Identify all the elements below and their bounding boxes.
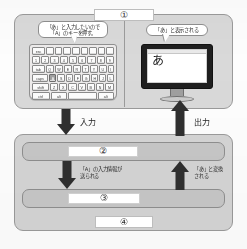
key-blank	[89, 47, 97, 55]
key-blank	[98, 47, 106, 55]
key-blank	[55, 47, 63, 55]
key-7: 7	[87, 56, 95, 64]
monitor-neck	[170, 89, 184, 96]
key-blank	[63, 47, 71, 55]
monitor-screen: あ	[147, 49, 207, 83]
arrow-shaft	[63, 161, 72, 179]
label-convert-line2: される	[194, 173, 234, 180]
key-y: Y	[90, 65, 98, 73]
arrow-head	[171, 100, 189, 111]
key-alt-left: alt	[51, 92, 68, 100]
step-marker-3-label: ③	[100, 194, 108, 203]
key-i: I	[108, 65, 114, 73]
keyboard-row-numbers: 1 2 3 4 5 6 7 8 9	[32, 56, 114, 64]
key-l: L	[107, 74, 114, 82]
key-4: 4	[60, 56, 68, 64]
balloon-keyboard-tail	[71, 36, 77, 44]
label-convert-line1: 「あ」と変換	[194, 166, 234, 173]
arrow-input-down	[55, 109, 77, 135]
key-tab: tab	[32, 65, 45, 73]
balloon-monitor-line1: 「あ」と表示される	[155, 27, 198, 33]
key-f: F	[74, 74, 81, 82]
key-g: G	[82, 74, 90, 82]
key-q: Q	[46, 65, 54, 73]
key-e: E	[64, 65, 72, 73]
key-n: N	[96, 83, 104, 91]
key-5: 5	[69, 56, 77, 64]
arrow-head	[58, 178, 76, 189]
label-output: 出力	[194, 116, 210, 127]
key-8: 8	[97, 56, 105, 64]
screen-character: あ	[152, 55, 164, 67]
key-w: W	[55, 65, 64, 73]
arrow-head	[57, 124, 75, 135]
keyboard-row-function: esc	[32, 47, 114, 55]
keyboard-row-modifiers: ctrl alt alt	[32, 92, 114, 100]
step-marker-3: ③	[68, 193, 140, 204]
key-h: H	[91, 74, 98, 82]
arrow-convert-up	[169, 161, 191, 190]
key-t: T	[82, 65, 89, 73]
label-convert-result: 「あ」と変換 される	[194, 166, 234, 180]
key-1: 1	[32, 56, 40, 64]
balloon-monitor-tail	[163, 34, 170, 42]
key-b: B	[87, 83, 95, 91]
key-shift: shift	[32, 83, 49, 91]
key-x: X	[59, 83, 67, 91]
keyboard-row-qwerty: tab Q W E R T Y U I	[32, 65, 114, 73]
key-d: D	[66, 74, 73, 82]
arrow-head	[171, 161, 189, 172]
keyboard-row-home: caps A S D F G H J L	[32, 74, 114, 82]
step-marker-2-label: ②	[99, 147, 107, 156]
arrow-send-down	[56, 161, 78, 190]
balloon-keyboard: 「あ」と入力したいので 「A」のキーを押す。	[38, 21, 108, 38]
key-z: Z	[50, 83, 58, 91]
key-r: R	[73, 65, 81, 73]
step-marker-4-label: ④	[120, 218, 128, 227]
arrow-shaft	[176, 172, 185, 190]
key-s: S	[57, 74, 64, 82]
step-marker-1: ①	[94, 9, 154, 21]
monitor-illustration: あ	[141, 44, 213, 102]
key-a-highlighted: A	[49, 74, 56, 82]
key-3: 3	[50, 56, 58, 64]
label-send-input-info: 「A」の入力情報が 送られる	[80, 166, 132, 180]
key-space	[68, 92, 96, 100]
arrow-shaft	[62, 109, 71, 125]
key-2: 2	[41, 56, 49, 64]
key-6: 6	[78, 56, 86, 64]
keyboard-illustration: esc 1 2 3 4 5 6 7 8 9 tab Q W E R	[29, 44, 117, 100]
arrow-output-up	[169, 100, 191, 136]
step-marker-2: ②	[68, 146, 138, 157]
key-blank	[72, 47, 80, 55]
label-send-line2: 送られる	[80, 173, 132, 180]
key-ctrl: ctrl	[32, 92, 50, 100]
monitor-bezel: あ	[141, 44, 213, 89]
key-9: 9	[106, 56, 114, 64]
key-alt-right: alt	[98, 92, 115, 100]
key-j: J	[99, 74, 106, 82]
keyboard-row-bottom-letters: shift Z X C V B N M	[32, 83, 114, 91]
key-c: C	[68, 83, 76, 91]
panel-divider	[124, 16, 125, 107]
diagram-canvas: ① 「あ」と入力したいので 「A」のキーを押す。 esc 1 2 3 4 5 6…	[0, 0, 247, 249]
key-blank	[81, 47, 89, 55]
key-v: V	[78, 83, 86, 91]
key-blank	[46, 47, 54, 55]
key-m: M	[105, 83, 114, 91]
arrow-shaft	[176, 111, 185, 136]
key-esc: esc	[32, 47, 45, 55]
key-blank	[106, 47, 114, 55]
step-marker-1-label: ①	[120, 11, 128, 20]
key-u: U	[99, 65, 107, 73]
label-input: 入力	[80, 116, 96, 127]
label-send-line1: 「A」の入力情報が	[80, 166, 132, 173]
key-capslock: caps	[32, 74, 48, 82]
balloon-monitor: 「あ」と表示される	[146, 24, 208, 36]
step-marker-4: ④	[95, 216, 153, 228]
